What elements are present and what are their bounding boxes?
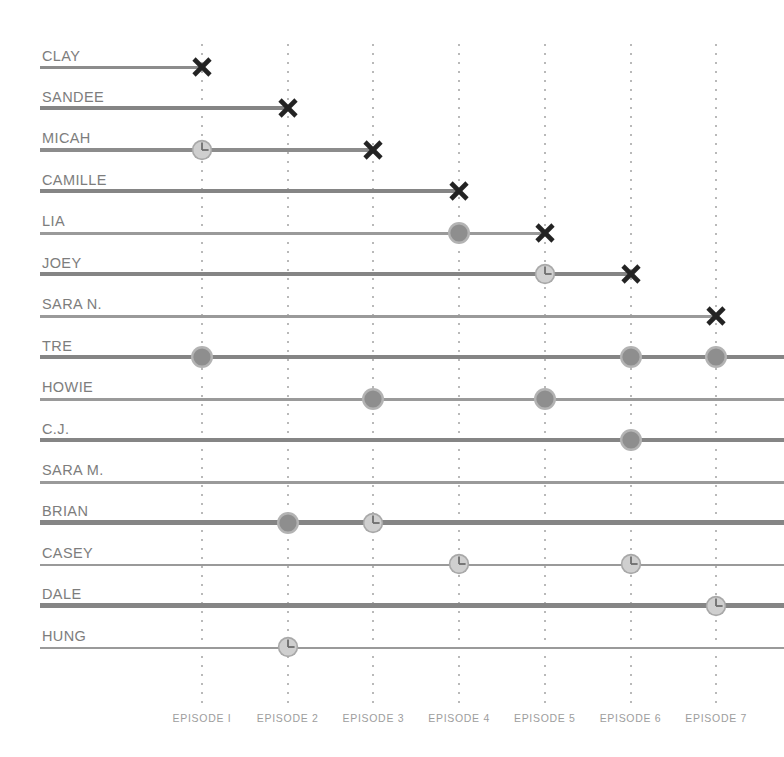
axis-tick-episode-7: EPISODE 7 — [685, 712, 747, 724]
clock-circle-marker[interactable] — [275, 634, 301, 660]
axis-tick-episode-1: EPISODE I — [173, 712, 232, 724]
contestant-row[interactable]: JOEY — [0, 234, 784, 276]
axis-tick-episode-4: EPISODE 4 — [428, 712, 490, 724]
contestant-name-label: SARA M. — [42, 463, 104, 478]
contestant-row[interactable]: HOWIE — [0, 359, 784, 401]
contestant-row[interactable]: BRIAN — [0, 483, 784, 525]
contestant-row[interactable]: CASEY — [0, 524, 784, 566]
axis-tick-episode-6: EPISODE 6 — [600, 712, 662, 724]
contestant-name-label: LIA — [42, 214, 65, 229]
contestant-name-label: SARA N. — [42, 297, 102, 312]
contestant-name-label: C.J. — [42, 422, 69, 437]
contestant-name-label: BRIAN — [42, 504, 88, 519]
episode-timeline-chart: CLAYSANDEEMICAHCAMILLELIAJOEYSARA N.TREH… — [0, 0, 784, 757]
contestant-name-label: TRE — [42, 339, 72, 354]
contestant-row[interactable]: CLAY — [0, 27, 784, 69]
axis-tick-episode-2: EPISODE 2 — [257, 712, 319, 724]
contestant-name-label: DALE — [42, 587, 81, 602]
contestant-row[interactable]: MICAH — [0, 110, 784, 152]
contestant-row[interactable]: C.J. — [0, 400, 784, 442]
contestant-name-label: HOWIE — [42, 380, 93, 395]
x-axis-episode-labels: EPISODE IEPISODE 2EPISODE 3EPISODE 4EPIS… — [0, 706, 784, 736]
axis-tick-episode-5: EPISODE 5 — [514, 712, 576, 724]
contestant-row[interactable]: CAMILLE — [0, 151, 784, 193]
axis-tick-episode-3: EPISODE 3 — [343, 712, 405, 724]
contestant-row[interactable]: DALE — [0, 566, 784, 608]
contestant-row[interactable]: SARA M. — [0, 442, 784, 484]
contestant-name-label: CLAY — [42, 49, 80, 64]
contestant-name-label: HUNG — [42, 629, 86, 644]
contestant-timeline-bar[interactable] — [40, 647, 784, 650]
contestant-name-label: SANDEE — [42, 90, 104, 105]
contestant-row[interactable]: HUNG — [0, 607, 784, 649]
contestant-name-label: CASEY — [42, 546, 93, 561]
contestant-row[interactable]: LIA — [0, 193, 784, 235]
contestant-name-label: CAMILLE — [42, 173, 107, 188]
contestant-row[interactable]: SARA N. — [0, 276, 784, 318]
contestant-name-label: MICAH — [42, 131, 91, 146]
contestant-row[interactable]: TRE — [0, 317, 784, 359]
contestant-row[interactable]: SANDEE — [0, 68, 784, 110]
contestant-name-label: JOEY — [42, 256, 81, 271]
